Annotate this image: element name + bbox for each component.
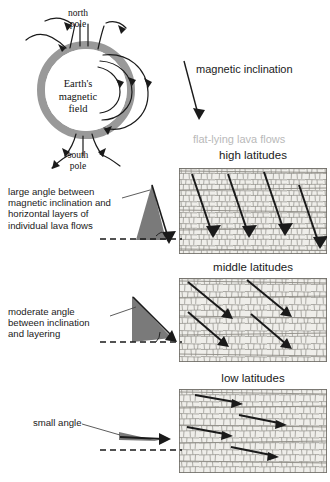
south-pole-line-1: south bbox=[48, 150, 108, 161]
band-title-low-latitudes: low latitudes bbox=[178, 372, 328, 384]
magnetic-inclination-label: magnetic inclination bbox=[196, 63, 293, 75]
lava-block-high-latitudes bbox=[179, 168, 327, 254]
caption-low-line-1: small angle bbox=[33, 417, 113, 428]
north-pole-label: north pole bbox=[48, 8, 108, 30]
earth-core-line-1: Earth's bbox=[38, 78, 118, 91]
caption-high-line-2: magnetic inclination and bbox=[8, 197, 140, 208]
north-pole-line-2: pole bbox=[48, 19, 108, 30]
field-line-inbound-topright bbox=[106, 22, 126, 28]
inclination-arrow-head bbox=[193, 108, 205, 120]
band-title-high-latitudes: high latitudes bbox=[178, 149, 328, 161]
caption-middle-line-2: between inclination bbox=[8, 317, 116, 328]
lava-low-svg bbox=[179, 389, 327, 473]
dashed-baseline-low bbox=[100, 447, 182, 453]
earth-core-line-3: field bbox=[38, 103, 118, 116]
flat-lying-lava-flows-label: flat-lying lava flows bbox=[193, 133, 285, 145]
band-title-middle-latitudes: middle latitudes bbox=[178, 261, 328, 273]
south-pole-line-2: pole bbox=[48, 161, 108, 172]
south-pole-label: south pole bbox=[48, 150, 108, 172]
earth-core-line-2: magnetic bbox=[38, 91, 118, 104]
caption-middle-line-1: moderate angle bbox=[8, 306, 116, 317]
north-pole-line-1: north bbox=[48, 8, 108, 19]
caption-high-line-1: large angle between bbox=[8, 186, 140, 197]
earth-core-label: Earth's magnetic field bbox=[38, 78, 118, 116]
dashed-baseline-middle bbox=[100, 339, 182, 345]
caption-middle-latitudes: moderate angle between inclination and l… bbox=[8, 306, 116, 340]
arrowhead-loop-outer bbox=[144, 78, 152, 88]
lava-block-middle-latitudes bbox=[179, 278, 327, 362]
lava-middle-texture bbox=[179, 278, 327, 362]
dashed-baseline-high bbox=[100, 236, 182, 242]
lava-high-svg bbox=[179, 168, 327, 254]
caption-high-latitudes: large angle between magnetic inclination… bbox=[8, 186, 140, 231]
wedge-low-arrowhead bbox=[159, 433, 171, 445]
lava-low-texture bbox=[179, 389, 327, 473]
caption-middle-line-3: and layering bbox=[8, 328, 116, 339]
caption-low-latitudes: small angle bbox=[33, 417, 113, 428]
caption-high-line-4: individual lava flows bbox=[8, 220, 140, 231]
lava-block-low-latitudes bbox=[179, 389, 327, 473]
lava-middle-svg bbox=[179, 278, 327, 362]
caption-high-line-3: horizontal layers of bbox=[8, 208, 140, 219]
